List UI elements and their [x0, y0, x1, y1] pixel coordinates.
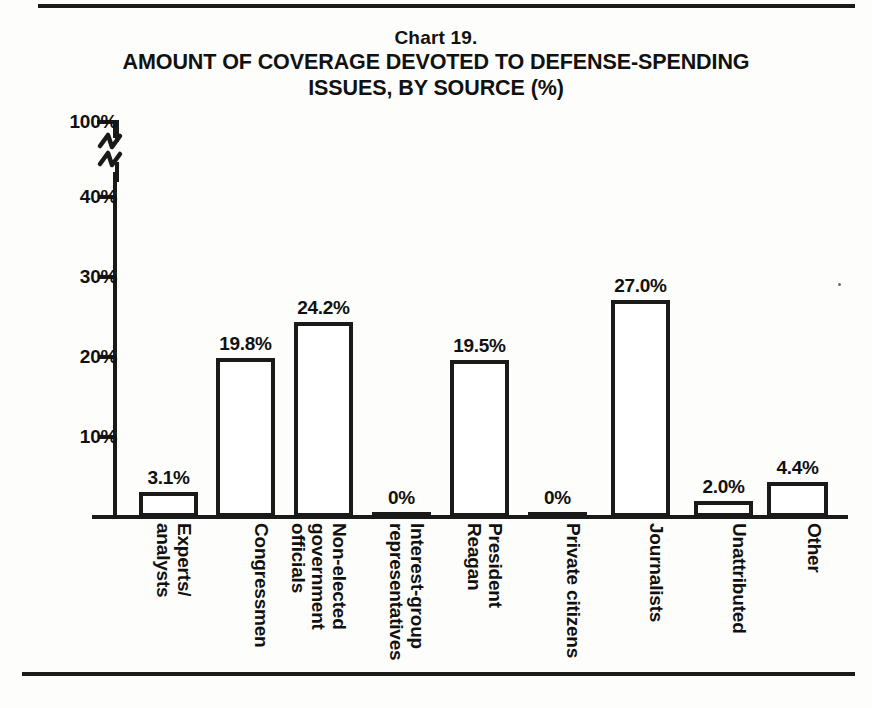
plot-area: 100%40%30%20%10% 3.1%Experts/ analysts19…: [0, 0, 872, 708]
x-axis-category-label: Congressmen: [251, 523, 272, 683]
bar: [611, 300, 670, 517]
y-axis-tick-label: 20%: [21, 347, 117, 366]
bar-value-label: 19.8%: [194, 334, 297, 353]
bar-value-label: 0%: [506, 488, 609, 507]
bar: [767, 482, 828, 517]
y-axis-tick-label: 40%: [21, 187, 117, 206]
y-axis-tick-label: 100%: [21, 112, 117, 131]
scan-speck: [838, 283, 841, 286]
bar: [450, 360, 509, 517]
bar-value-label: 19.5%: [428, 336, 531, 355]
x-axis-category-label: Interest-group representatives: [386, 523, 427, 683]
bar: [372, 512, 431, 517]
y-axis-tick-label: 10%: [21, 427, 117, 446]
bar: [139, 492, 198, 517]
x-axis-category-label: Experts/ analysts: [153, 523, 194, 683]
bar-value-label: 0%: [350, 488, 453, 507]
x-axis-category-label: Private citizens: [563, 523, 584, 683]
bar-value-label: 27.0%: [589, 276, 692, 295]
x-axis-category-label: Other: [804, 523, 825, 683]
x-axis-category-label: President Reagan: [464, 523, 505, 683]
chart-page: Chart 19. AMOUNT OF COVERAGE DEVOTED TO …: [0, 0, 872, 708]
bar-value-label: 2.0%: [672, 477, 775, 496]
x-axis-category-label: Non-elected government officials: [288, 523, 350, 683]
bar: [216, 358, 275, 517]
x-axis-category-label: Journalists: [646, 523, 667, 683]
bar: [294, 322, 353, 517]
y-axis-tick-label: 30%: [21, 267, 117, 286]
x-axis-category-label: Unattributed: [729, 523, 750, 683]
bar: [528, 512, 587, 517]
bar-value-label: 24.2%: [272, 298, 375, 317]
bar: [694, 501, 753, 517]
bar-value-label: 4.4%: [745, 458, 850, 477]
bar-value-label: 3.1%: [117, 468, 220, 487]
